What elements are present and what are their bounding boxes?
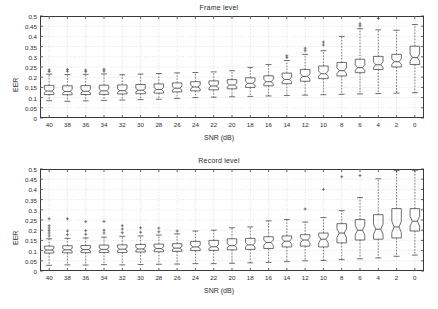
y-tick-label: 0.15 [6, 84, 37, 91]
x-tick-label: 36 [82, 274, 89, 281]
y-tick-label: 0.1 [6, 247, 37, 254]
boxplot-group [209, 230, 219, 263]
x-tick-label: 22 [210, 121, 217, 128]
x-tick-label: 28 [155, 274, 162, 281]
y-tick-label: 0.3 [6, 53, 37, 60]
x-tick-label: 12 [302, 274, 309, 281]
x-tick-label: 34 [101, 274, 108, 281]
y-tick-label: 0.45 [6, 176, 37, 183]
boxplot-group [264, 221, 274, 263]
boxplot-canvas-top [0, 4, 438, 154]
y-tick-label: 0.5 [6, 166, 37, 173]
x-tick-label: 16 [265, 274, 272, 281]
x-axis-label-bottom: SNR (dB) [0, 287, 438, 294]
x-tick-label: 18 [247, 121, 254, 128]
panel-frame-level: Frame level EER 00.050.10.150.20.250.30.… [0, 4, 438, 154]
y-tick-label: 0.5 [6, 13, 37, 20]
boxplot-group [355, 174, 365, 259]
x-tick-label: 30 [137, 274, 144, 281]
x-tick-label: 8 [340, 274, 343, 281]
panel-record-level: Record level EER 00.050.10.150.20.250.30… [0, 157, 438, 307]
y-tick-label: 0 [6, 115, 37, 122]
x-tick-label: 38 [64, 274, 71, 281]
x-tick-label: 6 [358, 121, 361, 128]
y-tick-label: 0.4 [6, 186, 37, 193]
x-tick-label: 4 [377, 274, 380, 281]
x-tick-label: 26 [174, 274, 181, 281]
x-tick-label: 34 [101, 121, 108, 128]
y-tick-label: 0 [6, 268, 37, 275]
x-tick-label: 10 [320, 121, 327, 128]
boxplot-group [191, 231, 201, 264]
x-tick-label: 6 [358, 274, 361, 281]
x-tick-label: 2 [395, 121, 398, 128]
y-tick-label: 0.2 [6, 74, 37, 81]
x-tick-label: 14 [283, 121, 290, 128]
x-tick-label: 10 [320, 274, 327, 281]
x-tick-label: 0 [413, 274, 416, 281]
x-tick-label: 40 [46, 274, 53, 281]
y-tick-label: 0.1 [6, 94, 37, 101]
x-tick-label: 2 [395, 274, 398, 281]
x-tick-label: 24 [192, 121, 199, 128]
boxplot-group [99, 68, 109, 101]
boxplot-group [374, 179, 384, 258]
x-tick-label: 30 [137, 121, 144, 128]
y-tick-label: 0.4 [6, 33, 37, 40]
boxplot-group [374, 17, 384, 94]
x-tick-label: 28 [155, 121, 162, 128]
boxplot-canvas-bottom [0, 157, 438, 307]
y-tick-label: 0.35 [6, 43, 37, 50]
y-tick-label: 0.35 [6, 196, 37, 203]
x-tick-label: 16 [265, 121, 272, 128]
x-tick-label: 20 [229, 121, 236, 128]
x-tick-label: 22 [210, 274, 217, 281]
y-tick-label: 0.25 [6, 217, 37, 224]
boxplot-group [264, 65, 274, 96]
boxplot-group [63, 68, 73, 101]
x-tick-label: 32 [119, 121, 126, 128]
y-tick-label: 0.05 [6, 257, 37, 264]
x-tick-label: 38 [64, 121, 71, 128]
x-tick-label: 24 [192, 274, 199, 281]
x-tick-label: 40 [46, 121, 53, 128]
x-tick-label: 32 [119, 274, 126, 281]
y-tick-label: 0.05 [6, 104, 37, 111]
boxplot-figure: Frame level EER 00.050.10.150.20.250.30.… [0, 0, 438, 309]
x-tick-label: 14 [283, 274, 290, 281]
y-tick-label: 0.25 [6, 64, 37, 71]
x-tick-label: 8 [340, 121, 343, 128]
x-tick-label: 4 [377, 121, 380, 128]
y-tick-label: 0.15 [6, 237, 37, 244]
boxplot-group [355, 22, 365, 94]
x-tick-label: 20 [229, 274, 236, 281]
x-tick-label: 0 [413, 121, 416, 128]
x-tick-label: 18 [247, 274, 254, 281]
y-tick-label: 0.3 [6, 206, 37, 213]
x-tick-label: 26 [174, 121, 181, 128]
x-tick-label: 36 [82, 121, 89, 128]
boxplot-group [300, 207, 310, 260]
boxplot-group [154, 227, 164, 265]
x-axis-label-top: SNR (dB) [0, 134, 438, 141]
y-tick-label: 0.2 [6, 227, 37, 234]
x-tick-label: 12 [302, 121, 309, 128]
y-tick-label: 0.45 [6, 23, 37, 30]
